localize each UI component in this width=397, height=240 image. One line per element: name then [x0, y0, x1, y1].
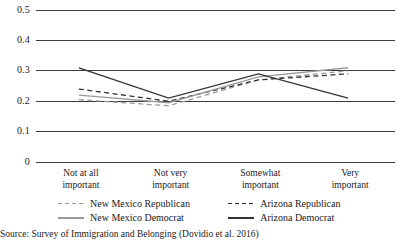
legend-item-new-mexico-republican: New Mexico Republican [36, 198, 220, 209]
source-note: Source: Survey of Immigration and Belong… [0, 229, 397, 240]
series-lines [36, 0, 395, 170]
y-tick-label: 0.2 [4, 96, 30, 106]
x-axis-category: Very important [305, 168, 395, 198]
legend-label: Arizona Republican [260, 198, 340, 209]
x-axis-category-line2: important [126, 180, 216, 192]
x-axis-category-line2: important [36, 180, 126, 192]
y-tick-label: 0 [4, 157, 30, 167]
legend-row: New Mexico Republican Arizona Republican [36, 196, 395, 210]
y-tick-label: 0.3 [4, 65, 30, 75]
legend-swatch-dashed-light [58, 199, 84, 208]
legend-item-arizona-democrat: Arizona Democrat [220, 212, 395, 223]
legend: New Mexico Republican Arizona Republican… [36, 196, 395, 226]
legend-item-new-mexico-democrat: New Mexico Democrat [36, 212, 220, 223]
legend-item-arizona-republican: Arizona Republican [220, 198, 395, 209]
legend-swatch-dashed-dark [228, 199, 254, 208]
series-line [79, 68, 348, 103]
y-tick-label: 0.5 [4, 5, 30, 15]
x-axis-category: Not very important [126, 168, 216, 198]
x-axis-labels: Not at all important Not very important … [36, 168, 395, 198]
legend-label: Arizona Democrat [260, 212, 334, 223]
x-axis-category-line1: Not at all [36, 168, 126, 180]
x-axis-category-line1: Not very [126, 168, 216, 180]
y-axis-tick-labels: 0.5 0.4 0.3 0.2 0.1 0 [0, 0, 30, 170]
x-axis-category-line2: important [216, 180, 306, 192]
x-axis-category: Not at all important [36, 168, 126, 198]
chart-figure: 0.5 0.4 0.3 0.2 0.1 0 Not at all importa… [0, 0, 397, 240]
x-axis-category-line1: Very [305, 168, 395, 180]
legend-row: New Mexico Democrat Arizona Democrat [36, 210, 395, 224]
legend-label: New Mexico Republican [90, 198, 190, 209]
legend-label: New Mexico Democrat [90, 212, 184, 223]
plot-area: 0.5 0.4 0.3 0.2 0.1 0 [0, 0, 397, 170]
x-axis-category: Somewhat important [216, 168, 306, 198]
grid-and-series [36, 0, 395, 170]
legend-swatch-solid-dark [228, 217, 254, 218]
x-axis-category-line2: important [305, 180, 395, 192]
y-tick-label: 0.4 [4, 35, 30, 45]
legend-swatch-solid-light [58, 217, 84, 218]
y-tick-label: 0.1 [4, 126, 30, 136]
x-axis-category-line1: Somewhat [216, 168, 306, 180]
